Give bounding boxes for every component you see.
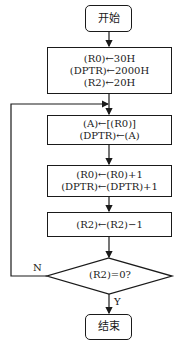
- yes-label: Y: [114, 296, 121, 307]
- init-line: (R2)←20H: [84, 77, 136, 89]
- start-label: 开始: [98, 13, 120, 25]
- end-node: 结束: [85, 314, 132, 340]
- increment-line: (R0)←(R0)+1: [76, 169, 143, 181]
- start-node: 开始: [85, 5, 132, 32]
- no-label: N: [33, 262, 42, 273]
- move-box: (A)←[(R0)] (DPTR)←(A): [47, 115, 172, 145]
- decision-text: (R2)=0?: [47, 269, 173, 280]
- increment-line: (DPTR)←(DPTR)+1: [61, 181, 158, 193]
- decrement-box: (R2)←(R2)−1: [47, 212, 172, 237]
- increment-box: (R0)←(R0)+1 (DPTR)←(DPTR)+1: [47, 165, 172, 197]
- init-line: (R0)←30H: [84, 53, 136, 65]
- end-label: 结束: [98, 321, 120, 333]
- move-line: (A)←[(R0)]: [83, 118, 136, 130]
- init-line: (DPTR)←2000H: [70, 65, 149, 77]
- decrement-line: (R2)←(R2)−1: [76, 219, 143, 231]
- init-box: (R0)←30H (DPTR)←2000H (R2)←20H: [47, 47, 172, 94]
- move-line: (DPTR)←(A): [79, 130, 139, 142]
